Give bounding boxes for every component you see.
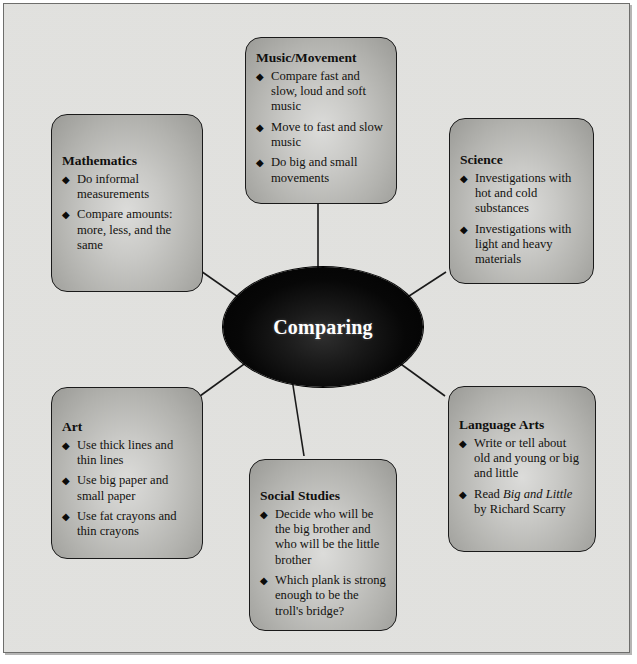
diamond-bullet-icon: ◆ [62, 172, 70, 187]
card-title-art: Art [62, 419, 192, 435]
topic-card-art[interactable]: Art ◆ Use thick lines and thin lines ◆ U… [51, 387, 203, 559]
card-title-language-arts: Language Arts [459, 417, 585, 433]
list-item-text: Use fat crayons and thin crayons [77, 509, 177, 538]
center-node[interactable]: Comparing [223, 267, 423, 387]
list-item-text: Use thick lines and thin lines [77, 438, 173, 467]
list-item: ◆ Which plank is strong enough to be the… [260, 573, 386, 619]
list-item: ◆ Write or tell about old and young or b… [459, 436, 585, 482]
list-item: ◆ Do informal measurements [62, 172, 192, 203]
diamond-bullet-icon: ◆ [460, 222, 468, 237]
bullet-list-social-studies: ◆ Decide who will be the big brother and… [260, 507, 386, 620]
bullet-list-art: ◆ Use thick lines and thin lines ◆ Use b… [62, 438, 192, 540]
list-item: ◆ Read Big and Little by Richard Scarry [459, 487, 585, 518]
list-item-text: Investigations with hot and cold substan… [475, 171, 571, 216]
diamond-bullet-icon: ◆ [260, 507, 268, 522]
list-item: ◆ Move to fast and slow music [256, 120, 386, 151]
page-frame: Comparing Mathematics ◆ Do informal meas… [3, 3, 630, 653]
list-item-text: Decide who will be the big brother and w… [275, 507, 379, 567]
list-item-text: Read Big and Little by Richard Scarry [474, 487, 572, 516]
list-item-text: Do big and small movements [271, 155, 357, 184]
card-title-science: Science [460, 152, 583, 168]
diamond-bullet-icon: ◆ [62, 509, 70, 524]
list-item: ◆ Decide who will be the big brother and… [260, 507, 386, 568]
diagram-root: Comparing Mathematics ◆ Do informal meas… [0, 0, 637, 664]
diamond-bullet-icon: ◆ [256, 155, 264, 170]
bullet-list-music-movement: ◆ Compare fast and slow, loud and soft m… [256, 69, 386, 187]
diamond-bullet-icon: ◆ [256, 69, 264, 84]
diamond-bullet-icon: ◆ [256, 120, 264, 135]
connector-social-studies [292, 379, 304, 456]
list-item: ◆ Compare amounts: more, less, and the s… [62, 207, 192, 253]
list-item: ◆ Use big paper and small paper [62, 473, 192, 504]
topic-card-science[interactable]: Science ◆ Investigations with hot and co… [449, 118, 594, 284]
topic-card-language-arts[interactable]: Language Arts ◆ Write or tell about old … [448, 386, 596, 552]
bullet-list-science: ◆ Investigations with hot and cold subst… [460, 171, 583, 268]
diamond-bullet-icon: ◆ [62, 438, 70, 453]
list-item-text: Do informal measurements [77, 172, 149, 201]
diamond-bullet-icon: ◆ [260, 573, 268, 588]
topic-card-mathematics[interactable]: Mathematics ◆ Do informal measurements ◆… [51, 114, 203, 292]
topic-card-social-studies[interactable]: Social Studies ◆ Decide who will be the … [249, 459, 397, 631]
center-node-label: Comparing [273, 316, 373, 339]
bullet-list-mathematics: ◆ Do informal measurements ◆ Compare amo… [62, 172, 192, 254]
list-item: ◆ Investigations with light and heavy ma… [460, 222, 583, 268]
list-item: ◆ Do big and small movements [256, 155, 386, 186]
bullet-list-language-arts: ◆ Write or tell about old and young or b… [459, 436, 585, 518]
card-title-music-movement: Music/Movement [256, 50, 386, 66]
list-item-text: Move to fast and slow music [271, 120, 383, 149]
card-title-mathematics: Mathematics [62, 153, 192, 169]
list-item-text: Compare fast and slow, loud and soft mus… [271, 69, 366, 114]
list-item-text: Use big paper and small paper [77, 473, 168, 502]
list-item-text: Investigations with light and heavy mate… [475, 222, 571, 267]
list-item: ◆ Compare fast and slow, loud and soft m… [256, 69, 386, 115]
list-item-text: Write or tell about old and young or big… [474, 436, 579, 481]
list-item: ◆ Use thick lines and thin lines [62, 438, 192, 469]
diamond-bullet-icon: ◆ [459, 436, 467, 451]
topic-card-music-movement[interactable]: Music/Movement ◆ Compare fast and slow, … [245, 37, 397, 204]
list-item-text: Which plank is strong enough to be the t… [275, 573, 386, 618]
diamond-bullet-icon: ◆ [62, 473, 70, 488]
list-item: ◆ Investigations with hot and cold subst… [460, 171, 583, 217]
list-item-text: Compare amounts: more, less, and the sam… [77, 207, 173, 252]
card-title-social-studies: Social Studies [260, 488, 386, 504]
diamond-bullet-icon: ◆ [459, 487, 467, 502]
diamond-bullet-icon: ◆ [62, 207, 70, 222]
list-item: ◆ Use fat crayons and thin crayons [62, 509, 192, 540]
diamond-bullet-icon: ◆ [460, 171, 468, 186]
